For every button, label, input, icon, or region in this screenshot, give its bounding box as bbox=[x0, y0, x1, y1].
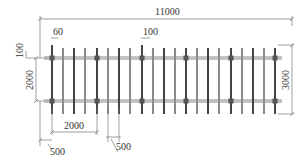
connection-node bbox=[273, 99, 278, 104]
connection-node bbox=[184, 56, 189, 61]
dimension-overall-width: 3000 bbox=[278, 43, 294, 116]
dimension-bar-gap: 100 bbox=[141, 26, 158, 38]
overall-width-label: 3000 bbox=[280, 70, 291, 90]
connection-node bbox=[140, 99, 145, 104]
connection-node bbox=[229, 99, 234, 104]
top-offset-label: 100 bbox=[14, 43, 25, 58]
connection-node bbox=[229, 56, 234, 61]
rail-spacing-label: 2000 bbox=[24, 70, 35, 90]
connection-node bbox=[95, 56, 100, 61]
dimension-overall-length: 11000 bbox=[38, 6, 294, 58]
dimension-bar-width: 60 bbox=[51, 26, 63, 38]
connection-node bbox=[140, 56, 145, 61]
bar-spacing-label: 500 bbox=[116, 141, 131, 152]
connection-node bbox=[184, 99, 189, 104]
connection-node bbox=[50, 99, 55, 104]
post-spacing-label: 2000 bbox=[64, 120, 84, 131]
bar-width-label: 60 bbox=[53, 26, 63, 37]
vertical-bars bbox=[50, 45, 278, 114]
connection-node bbox=[273, 56, 278, 61]
engineering-drawing: 11000 60 100 100 2000 3000 bbox=[0, 0, 307, 166]
bar-gap-label: 100 bbox=[143, 26, 158, 37]
end-offset-label: 500 bbox=[50, 146, 65, 157]
dimension-left: 100 2000 bbox=[14, 43, 50, 103]
overall-length-label: 11000 bbox=[155, 6, 180, 17]
connection-node bbox=[50, 56, 55, 61]
connection-node bbox=[95, 99, 100, 104]
